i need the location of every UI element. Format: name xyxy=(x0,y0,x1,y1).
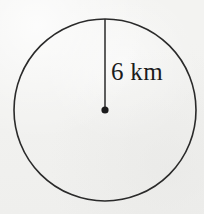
figure-canvas: 6 km xyxy=(0,0,204,214)
center-point-dot xyxy=(101,106,108,113)
circle-diagram xyxy=(0,0,204,214)
radius-length-label: 6 km xyxy=(111,58,163,86)
